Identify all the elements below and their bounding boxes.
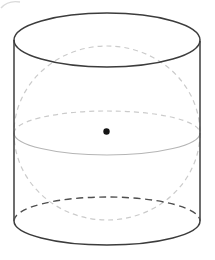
geometry-figure bbox=[0, 0, 215, 260]
cylinder-bottom-front-edge bbox=[14, 221, 200, 245]
cylinder-bottom-back-edge-hidden bbox=[14, 197, 200, 221]
center-point-dot bbox=[103, 128, 109, 134]
sphere-equator-front bbox=[14, 133, 200, 155]
diagram-page bbox=[0, 0, 215, 260]
cylinder-sphere-diagram bbox=[0, 0, 215, 260]
cylinder-top-ellipse bbox=[14, 13, 200, 67]
scan-artifact-stroke bbox=[1, 2, 20, 8]
